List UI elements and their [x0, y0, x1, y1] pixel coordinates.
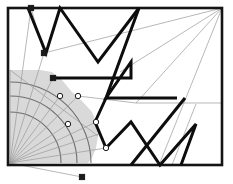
terminal-marker-below-frame — [79, 174, 84, 179]
vertex-marker-open-4 — [93, 119, 98, 124]
vertex-marker-open-2 — [75, 93, 80, 98]
vertex-marker-open-3 — [65, 121, 70, 126]
figure-container — [0, 0, 233, 184]
geometry-diagram — [0, 0, 233, 184]
vertex-marker-solid-2 — [50, 75, 55, 80]
vertex-marker-solid-1 — [41, 50, 46, 55]
vertex-marker-open-1 — [57, 93, 62, 98]
vertex-marker-open-5 — [103, 145, 108, 150]
vertex-marker-solid-3 — [28, 5, 33, 10]
